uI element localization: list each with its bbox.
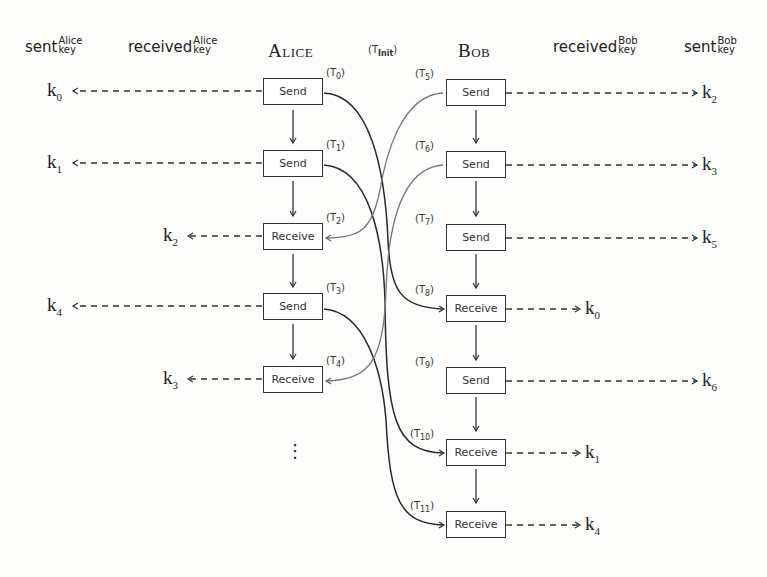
bob-step-box: Send xyxy=(446,151,506,178)
bob-step-box: Send xyxy=(446,367,506,394)
alice-received-key: k3 xyxy=(163,367,178,391)
alice-step-box: Receive xyxy=(263,366,323,393)
step-tag: (T1) xyxy=(326,139,345,153)
step-tag: (T0) xyxy=(326,67,345,81)
header-alice-received: receivedAlicekey xyxy=(128,38,217,57)
step-tag: (T4) xyxy=(326,355,345,369)
bob-key-arrows xyxy=(506,93,697,525)
bob-step-box: Receive xyxy=(446,295,506,322)
alice-step-box: Send xyxy=(263,293,323,320)
bob-sent-key: k6 xyxy=(702,369,717,393)
messages-alice-to-bob xyxy=(324,93,444,525)
bob-sent-key: k5 xyxy=(702,226,717,250)
alice-step-box: Send xyxy=(263,150,323,177)
bob-received-key: k0 xyxy=(585,297,600,321)
bob-received-key: k1 xyxy=(585,441,600,465)
header-bob-received: receivedBobkey xyxy=(553,38,638,57)
step-tag: (T3) xyxy=(326,282,345,296)
bob-received-key: k4 xyxy=(585,513,600,537)
alice-received-key: k2 xyxy=(163,224,178,248)
step-tag: (T10) xyxy=(410,428,434,442)
step-tag: (T7) xyxy=(415,213,434,227)
bob-sent-key: k2 xyxy=(702,81,717,105)
header-alice-sent: sentAlicekey xyxy=(25,38,83,57)
wires-layer xyxy=(0,0,767,577)
bob-step-box: Receive xyxy=(446,439,506,466)
t-init-label: (TInit) xyxy=(368,44,397,58)
bob-sent-key: k3 xyxy=(702,153,717,177)
alice-continuation-ellipsis: ⋮ xyxy=(286,440,304,461)
alice-sent-key: k4 xyxy=(47,294,62,318)
step-tag: (T2) xyxy=(326,212,345,226)
messages-bob-to-alice xyxy=(326,93,443,381)
alice-sent-key: k0 xyxy=(47,79,62,103)
step-tag: (T9) xyxy=(415,356,434,370)
bob-step-box: Send xyxy=(446,79,506,106)
header-bob: Bob xyxy=(458,40,490,62)
step-tag: (T11) xyxy=(410,500,434,514)
step-tag: (T5) xyxy=(415,68,434,82)
bob-step-box: Receive xyxy=(446,511,506,538)
alice-step-box: Receive xyxy=(263,223,323,250)
bob-step-box: Send xyxy=(446,224,506,251)
header-alice: Alice xyxy=(268,40,313,62)
alice-sent-key: k1 xyxy=(47,151,62,175)
step-tag: (T8) xyxy=(415,284,434,298)
header-bob-sent: sentBobkey xyxy=(684,38,737,57)
step-tag: (T6) xyxy=(415,140,434,154)
alice-step-box: Send xyxy=(263,78,323,105)
